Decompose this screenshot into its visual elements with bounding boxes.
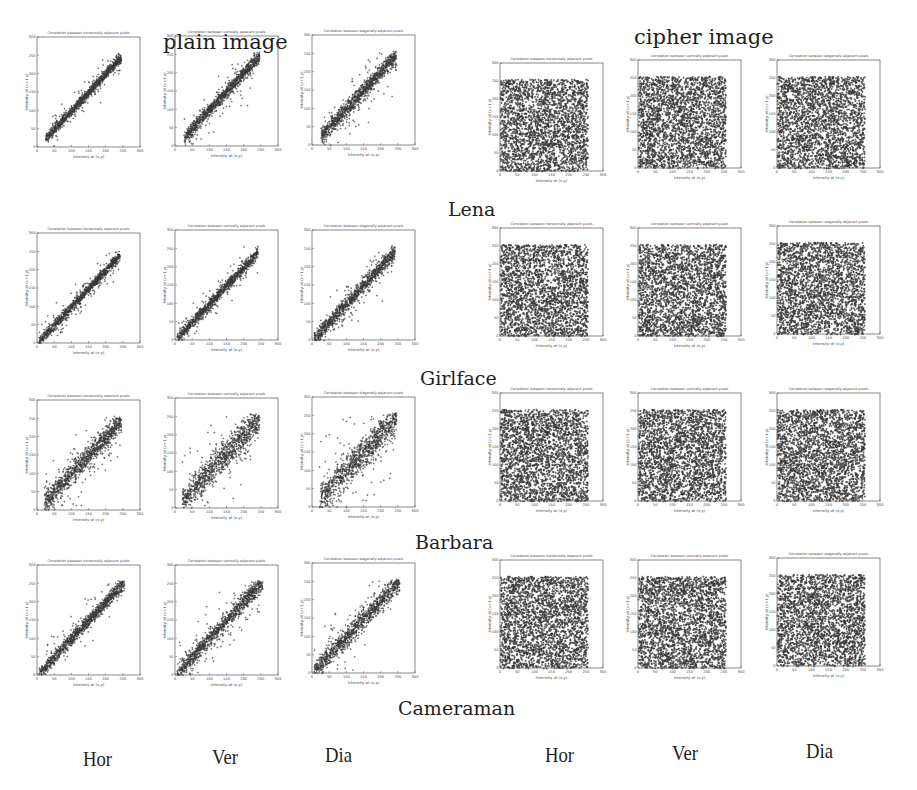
svg-text:250: 250 [859, 503, 867, 507]
cipher-image-header: cipher image [634, 25, 774, 49]
plot-title: Correlation between diagonally adjacent … [312, 557, 415, 561]
svg-text:150: 150 [769, 445, 777, 449]
x-axis-label: Intensity at (x,y) [536, 178, 568, 183]
svg-text:100: 100 [167, 470, 175, 474]
x-axis-label: Intensity at (x,y) [813, 508, 845, 513]
svg-text:100: 100 [769, 130, 777, 134]
plot-title: Correlation between vertically adjacent … [175, 30, 278, 34]
svg-text:200: 200 [240, 148, 248, 152]
svg-text:100: 100 [29, 637, 37, 641]
svg-text:50: 50 [792, 668, 797, 672]
svg-text:0: 0 [776, 170, 779, 174]
svg-text:150: 150 [360, 342, 368, 346]
x-axis-label: Intensity at (x,y) [813, 175, 845, 180]
scatter-axes: 050100150200250300050100150200250300Inte… [488, 220, 615, 354]
x-axis-label: Intensity at (x,y) [211, 515, 243, 520]
scatter-plot-barbara-cipher-ver: Correlation between vertically adjacent … [626, 385, 753, 519]
svg-text:250: 250 [304, 580, 312, 584]
plot-title: Correlation between diagonally adjacent … [777, 552, 880, 556]
svg-text:50: 50 [190, 510, 195, 514]
svg-text:100: 100 [167, 108, 175, 112]
scatter-axes: 050100150200250300050100150200250300Inte… [163, 222, 290, 358]
scatter-axes: 050100150200250300050100150200250300Inte… [626, 52, 753, 186]
svg-text:100: 100 [669, 338, 677, 342]
svg-text:100: 100 [808, 668, 816, 672]
svg-text:0: 0 [311, 675, 314, 679]
svg-text:50: 50 [52, 512, 57, 516]
svg-text:50: 50 [653, 670, 658, 674]
scatter-plot-girlface-cipher-hor: Correlation between horizontally adjacen… [488, 220, 615, 354]
svg-text:200: 200 [240, 510, 248, 514]
svg-text:0: 0 [311, 509, 314, 513]
svg-text:50: 50 [515, 338, 520, 342]
svg-text:200: 200 [703, 503, 711, 507]
plot-title: Correlation between diagonally adjacent … [777, 54, 880, 58]
svg-text:0: 0 [36, 512, 39, 516]
scatter-plot-barbara-plain-hor: Correlation between horizontally adjacen… [25, 392, 152, 528]
svg-text:50: 50 [169, 320, 174, 324]
svg-text:300: 300 [600, 670, 608, 674]
svg-text:50: 50 [653, 503, 658, 507]
x-axis-label: Intensity at (x,y) [348, 680, 380, 685]
svg-text:100: 100 [304, 635, 312, 639]
svg-text:250: 250 [859, 336, 867, 340]
scatter-plot-barbara-plain-ver: Correlation between vertically adjacent … [163, 390, 290, 526]
svg-text:50: 50 [494, 316, 499, 320]
scatter-axes: 050100150200250300050100150200250300Inte… [300, 27, 427, 163]
y-axis-label: Intensity at (x+1,y) [488, 263, 492, 301]
plot-title: Correlation between diagonally adjacent … [777, 220, 880, 224]
scatter-axes: 050100150200250300050100150200250300Inte… [488, 55, 615, 189]
x-axis-label: Intensity at (x,y) [211, 682, 243, 687]
svg-text:300: 300 [492, 558, 500, 562]
scatter-axes: 050100150200250300050100150200250300Inte… [626, 385, 753, 519]
plot-title: Correlation between horizontally adjacen… [500, 57, 603, 61]
x-axis-label: Intensity at (x,y) [348, 514, 380, 519]
svg-text:150: 150 [167, 283, 175, 287]
svg-text:250: 250 [769, 409, 777, 413]
svg-text:50: 50 [306, 320, 311, 324]
scatter-points [777, 76, 865, 169]
svg-text:200: 200 [630, 594, 638, 598]
scatter-axes: 050100150200250300050100150200250300Inte… [25, 29, 152, 165]
svg-text:100: 100 [304, 469, 312, 473]
svg-text:100: 100 [531, 503, 539, 507]
svg-text:200: 200 [167, 71, 175, 75]
svg-text:200: 200 [842, 503, 850, 507]
svg-text:100: 100 [343, 342, 351, 346]
svg-text:150: 150 [548, 670, 556, 674]
y-axis-label: Intensity at (x+1,y) [488, 595, 492, 633]
svg-text:150: 150 [85, 677, 93, 681]
svg-text:300: 300 [877, 170, 885, 174]
svg-text:200: 200 [842, 668, 850, 672]
svg-text:150: 150 [304, 450, 312, 454]
svg-text:300: 300 [275, 510, 283, 514]
scatter-axes: 050100150200250300050100150200250300Inte… [163, 28, 290, 164]
svg-text:250: 250 [492, 409, 500, 413]
col-label-plain-dia: Dia [325, 742, 352, 768]
svg-text:200: 200 [102, 345, 110, 349]
scatter-axes: 050100150200250300050100150200250300Inte… [163, 557, 290, 693]
svg-text:0: 0 [776, 503, 779, 507]
svg-text:250: 250 [630, 76, 638, 80]
svg-text:300: 300 [738, 670, 746, 674]
svg-text:200: 200 [167, 433, 175, 437]
svg-text:300: 300 [275, 677, 283, 681]
scatter-plot-cameraman-plain-ver: Correlation between vertically adjacent … [163, 557, 290, 693]
plot-title: Correlation between vertically adjacent … [175, 224, 278, 228]
plot-title: Correlation between horizontally adjacen… [37, 31, 140, 35]
svg-text:200: 200 [377, 509, 385, 513]
svg-text:50: 50 [327, 342, 332, 346]
scatter-points [321, 51, 397, 146]
svg-text:0: 0 [174, 342, 177, 346]
y-axis-label: Intensity at (x+1,y) [488, 98, 492, 136]
svg-text:50: 50 [632, 148, 637, 152]
svg-text:150: 150 [630, 612, 638, 616]
svg-text:50: 50 [327, 509, 332, 513]
svg-text:150: 150 [29, 286, 37, 290]
svg-text:250: 250 [119, 149, 127, 153]
scatter-plot-cameraman-cipher-hor: Correlation between horizontally adjacen… [488, 552, 615, 686]
row-label-girlface: Girlface [420, 367, 497, 389]
svg-text:300: 300 [412, 509, 420, 513]
svg-text:50: 50 [494, 481, 499, 485]
svg-text:250: 250 [720, 503, 728, 507]
